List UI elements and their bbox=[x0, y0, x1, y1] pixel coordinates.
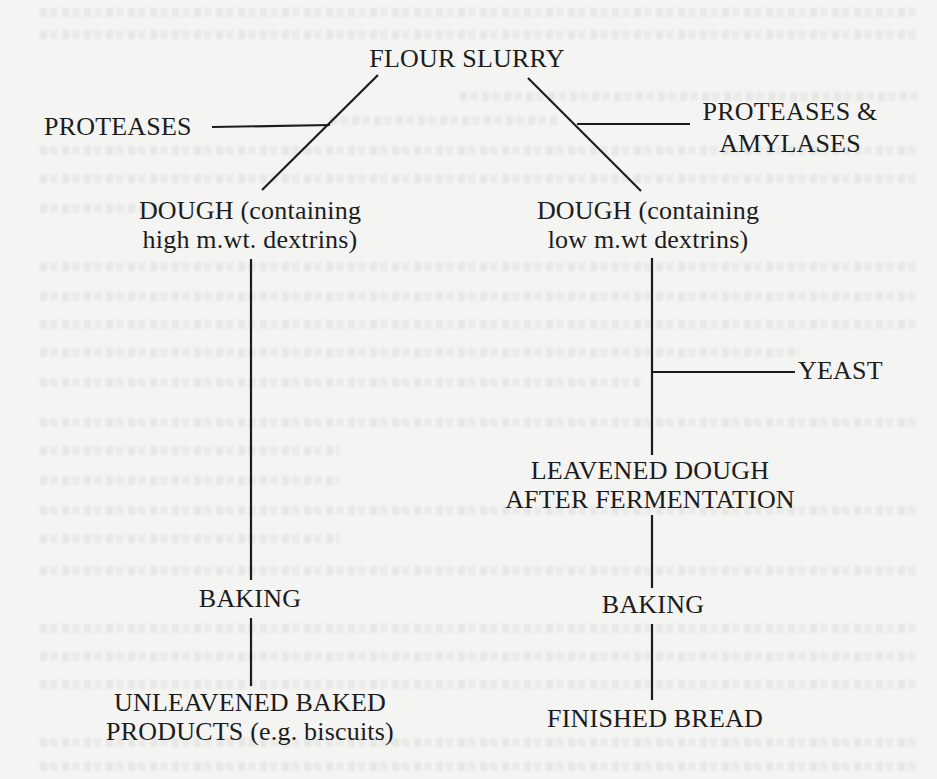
node-flour-slurry: FLOUR SLURRY bbox=[347, 44, 587, 73]
node-yeast: YEAST bbox=[798, 356, 928, 385]
node-finished-bread: FINISHED BREAD bbox=[500, 704, 810, 733]
connector-slurry-to-dough-high bbox=[262, 75, 378, 190]
connector-proteases-input bbox=[212, 125, 330, 127]
node-leavened-dough: LEAVENED DOUGH AFTER FERMENTATION bbox=[470, 456, 830, 514]
node-unleavened-line1: UNLEAVENED BAKED bbox=[70, 688, 430, 717]
node-dough-low-dextrins: DOUGH (containing low m.wt dextrins) bbox=[498, 196, 798, 254]
node-finished-bread-text: FINISHED BREAD bbox=[547, 704, 763, 733]
node-proteases-amylases-line2: AMYLASES bbox=[690, 128, 890, 160]
connector-slurry-to-dough-low bbox=[528, 78, 641, 191]
node-unleavened-products: UNLEAVENED BAKED PRODUCTS (e.g. biscuits… bbox=[70, 688, 430, 746]
node-leavened-line1: LEAVENED DOUGH bbox=[470, 456, 830, 485]
node-dough-high-line2: high m.wt. dextrins) bbox=[100, 225, 400, 254]
node-dough-low-line2: low m.wt dextrins) bbox=[498, 225, 798, 254]
node-leavened-line2: AFTER FERMENTATION bbox=[470, 485, 830, 514]
node-unleavened-line2: PRODUCTS (e.g. biscuits) bbox=[70, 717, 430, 746]
node-flour-slurry-text: FLOUR SLURRY bbox=[369, 44, 564, 73]
node-proteases-amylases: PROTEASES & AMYLASES bbox=[690, 96, 890, 160]
node-baking-right: BAKING bbox=[553, 590, 753, 619]
node-dough-low-line1: DOUGH (containing bbox=[498, 196, 798, 225]
node-dough-high-line1: DOUGH (containing bbox=[100, 196, 400, 225]
node-dough-high-dextrins: DOUGH (containing high m.wt. dextrins) bbox=[100, 196, 400, 254]
node-proteases-amylases-line1: PROTEASES & bbox=[690, 96, 890, 128]
node-yeast-text: YEAST bbox=[798, 356, 883, 385]
node-proteases: PROTEASES bbox=[44, 112, 212, 141]
node-baking-right-text: BAKING bbox=[602, 590, 704, 619]
node-baking-left-text: BAKING bbox=[199, 584, 301, 613]
node-baking-left: BAKING bbox=[150, 584, 350, 613]
node-proteases-text: PROTEASES bbox=[44, 112, 192, 141]
